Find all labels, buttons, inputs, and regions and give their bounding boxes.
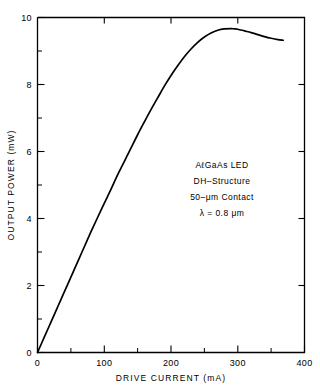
data-curve-led-li [38, 29, 284, 353]
x-tick-labels: 0 100 200 300 400 [35, 358, 313, 368]
x-axis-top-ticks [104, 18, 238, 24]
x-axis-title: DRIVE CURRENT (mA) [116, 373, 226, 383]
chart-svg: 0 2 4 6 8 10 0 100 200 300 400 DRIVE CUR… [0, 0, 320, 389]
x-tick-label-200: 200 [163, 358, 179, 368]
y-tick-label-4: 4 [27, 214, 32, 224]
annotation-line-1: AℓGaAs LED [195, 160, 248, 170]
x-tick-label-0: 0 [35, 358, 40, 368]
annotation-line-2: DH–Structure [194, 176, 251, 186]
y-tick-label-8: 8 [27, 80, 32, 90]
y-tick-label-6: 6 [27, 147, 32, 157]
y-tick-label-10: 10 [21, 13, 32, 23]
x-tick-label-300: 300 [230, 358, 246, 368]
y-axis-title: OUTPUT POWER (mW) [6, 129, 16, 240]
y-tick-label-2: 2 [27, 281, 32, 291]
y-tick-labels: 0 2 4 6 8 10 [21, 13, 32, 358]
y-axis-right-ticks [299, 85, 305, 286]
x-tick-label-100: 100 [96, 358, 112, 368]
chart-figure: 0 2 4 6 8 10 0 100 200 300 400 DRIVE CUR… [0, 0, 320, 389]
y-tick-label-0: 0 [27, 348, 32, 358]
axis-frame [38, 18, 305, 353]
plot-border [38, 18, 305, 353]
x-tick-label-400: 400 [296, 358, 312, 368]
y-axis-minor-ticks [38, 51, 43, 319]
annotation-block: AℓGaAs LED DH–Structure 50–μm Contact λ … [190, 160, 254, 218]
annotation-line-3: 50–μm Contact [190, 192, 254, 202]
x-axis-major-ticks [38, 346, 305, 353]
annotation-line-4: λ = 0.8 μm [200, 208, 245, 218]
